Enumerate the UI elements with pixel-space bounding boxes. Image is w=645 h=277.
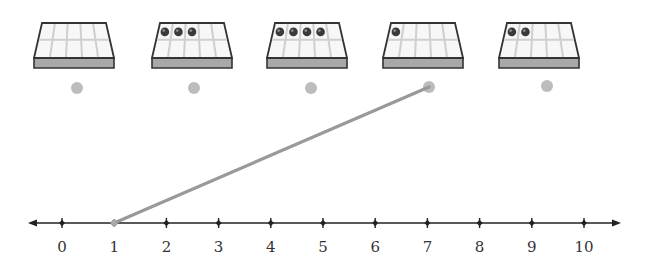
counter-icon [276,28,285,37]
tick-marker-7[interactable] [424,220,430,226]
ten-frame-tray-1[interactable] [33,21,115,73]
counter-icon [508,28,517,37]
counter-icon [289,28,298,37]
ten-frame-tray-3[interactable] [266,21,348,73]
right-arrow-icon [612,220,621,227]
counter-icon [161,28,170,37]
answer-dot-2[interactable] [188,82,200,94]
tick-label-4: 4 [266,238,276,256]
connector-line-1[interactable] [114,87,429,223]
counter-icon [174,28,183,37]
tick-label-10: 10 [574,238,593,256]
tick-marker-0[interactable] [59,220,65,226]
ten-frame-tray-4[interactable] [382,21,464,73]
counter-icon [303,28,312,37]
answer-dot-4[interactable] [423,81,435,93]
tick-label-3: 3 [214,238,224,256]
tick-label-6: 6 [370,238,380,256]
left-arrow-icon [28,220,37,227]
tick-marker-3[interactable] [216,220,222,226]
counter-icon [316,28,325,37]
ten-frame-tray-2[interactable] [151,21,233,73]
tick-label-2: 2 [162,238,172,256]
tick-label-7: 7 [423,238,433,256]
counter-icon [521,28,530,37]
tick-label-8: 8 [475,238,485,256]
tick-marker-5[interactable] [320,220,326,226]
tick-label-9: 9 [527,238,537,256]
tick-marker-9[interactable] [529,220,535,226]
tick-marker-2[interactable] [163,220,169,226]
tick-marker-10[interactable] [581,220,587,226]
tick-marker-6[interactable] [372,220,378,226]
answer-dot-1[interactable] [71,82,83,94]
counter-icon [392,28,401,37]
tick-marker-8[interactable] [477,220,483,226]
tick-label-1: 1 [109,238,119,256]
tick-marker-1[interactable] [110,219,118,227]
counter-icon [188,28,197,37]
ten-frame-tray-5[interactable] [498,21,580,73]
tick-label-0: 0 [57,238,67,256]
tick-label-5: 5 [318,238,328,256]
tick-marker-4[interactable] [268,220,274,226]
answer-dot-5[interactable] [541,80,553,92]
answer-dot-3[interactable] [305,82,317,94]
matching-activity: 012345678910 [0,0,645,277]
